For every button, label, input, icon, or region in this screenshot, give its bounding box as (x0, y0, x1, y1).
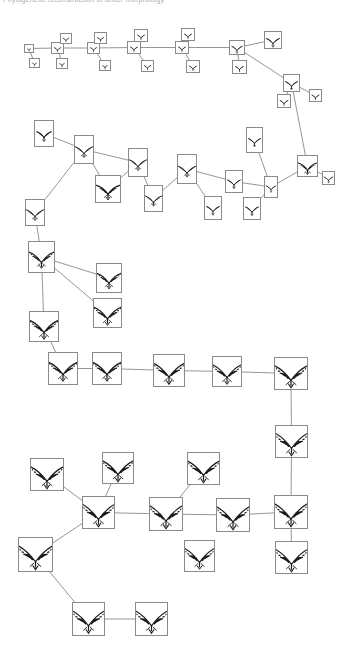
antler-icon (150, 498, 182, 530)
tree-node-n1[interactable] (24, 44, 34, 53)
tree-node-n29[interactable] (204, 196, 222, 220)
tree-node-n25[interactable] (128, 148, 148, 177)
tree-node-n34[interactable] (322, 171, 335, 185)
antler-icon (178, 155, 196, 183)
tree-node-n30[interactable] (246, 127, 263, 153)
antler-icon (233, 61, 246, 73)
tree-node-n24[interactable] (95, 175, 121, 203)
tree-node-n18[interactable] (283, 74, 300, 92)
antler-icon (275, 358, 307, 389)
tree-node-n7[interactable] (94, 32, 107, 44)
antler-icon (30, 59, 39, 67)
tree-node-n42[interactable] (212, 356, 242, 387)
tree-node-n15[interactable] (229, 40, 245, 55)
tree-node-n51[interactable] (187, 452, 220, 485)
tree-node-n21[interactable] (34, 120, 54, 147)
antler-icon (154, 355, 184, 386)
tree-node-n41[interactable] (153, 354, 185, 387)
antler-icon (145, 186, 162, 211)
tree-node-n10[interactable] (134, 29, 148, 42)
tree-edge (37, 226, 39, 241)
antler-icon (142, 61, 153, 71)
tree-edge (293, 92, 305, 155)
antler-icon (128, 42, 140, 53)
tree-node-n35[interactable] (28, 241, 55, 273)
tree-node-n28[interactable] (225, 170, 243, 193)
tree-node-n50[interactable] (149, 497, 183, 531)
tree-node-n12[interactable] (175, 41, 189, 54)
tree-node-n53[interactable] (184, 540, 215, 572)
antler-icon (182, 29, 194, 40)
antler-icon (247, 128, 262, 152)
tree-node-n37[interactable] (93, 298, 122, 328)
tree-edge (197, 184, 205, 196)
tree-node-n13[interactable] (181, 28, 195, 41)
antler-icon (244, 198, 260, 219)
tree-edge (42, 273, 43, 311)
tree-node-n8[interactable] (99, 60, 111, 71)
tree-node-n54[interactable] (18, 537, 53, 572)
tree-edge (242, 372, 274, 373)
tree-node-n45[interactable] (274, 495, 308, 529)
tree-node-n17[interactable] (264, 31, 282, 49)
antler-icon (49, 353, 77, 384)
antler-icon (310, 90, 321, 101)
tree-node-n46[interactable] (275, 541, 308, 574)
tree-edge (93, 164, 100, 175)
tree-edge (55, 268, 93, 300)
tree-node-n38[interactable] (29, 311, 59, 342)
tree-node-n32[interactable] (243, 197, 261, 220)
tree-edge (122, 369, 153, 370)
tree-node-n22[interactable] (74, 135, 94, 164)
tree-node-n11[interactable] (141, 60, 154, 72)
tree-node-n16[interactable] (232, 60, 247, 74)
tree-node-n48[interactable] (102, 452, 134, 484)
antler-icon (265, 32, 281, 48)
tree-node-n49[interactable] (82, 496, 115, 529)
tree-node-n26[interactable] (144, 185, 163, 212)
tree-node-n44[interactable] (275, 425, 308, 458)
tree-edge (45, 162, 74, 199)
tree-edge (51, 342, 56, 352)
tree-edge (106, 484, 111, 496)
antler-icon (176, 42, 188, 53)
tree-node-n36[interactable] (96, 263, 122, 293)
tree-node-n39[interactable] (48, 352, 78, 385)
antler-icon (31, 459, 63, 490)
tree-edge (115, 513, 149, 514)
tree-edge (53, 524, 82, 543)
tree-node-n19[interactable] (277, 94, 291, 108)
tree-node-n55[interactable] (72, 602, 105, 636)
tree-node-n9[interactable] (127, 41, 141, 54)
tree-edge (250, 513, 274, 514)
tree-node-n5[interactable] (56, 58, 68, 69)
antler-icon (217, 499, 249, 531)
tree-node-n52[interactable] (216, 498, 250, 532)
antler-icon (30, 312, 58, 341)
antler-icon (276, 426, 307, 457)
antler-icon (93, 353, 121, 384)
tree-node-n2[interactable] (29, 58, 40, 68)
antler-icon (213, 357, 241, 386)
tree-node-n43[interactable] (274, 357, 308, 390)
tree-node-n56[interactable] (135, 602, 168, 636)
tree-edge (50, 572, 75, 602)
antler-icon (96, 176, 120, 202)
tree-node-n40[interactable] (92, 352, 122, 385)
tree-node-n31[interactable] (264, 176, 278, 198)
antler-icon (73, 603, 104, 635)
figure-canvas: Phylogenetic reconstruction of antler mo… (0, 0, 348, 658)
tree-node-n23[interactable] (25, 199, 45, 226)
tree-edge (259, 153, 267, 176)
antler-icon (95, 33, 106, 43)
tree-node-n14[interactable] (186, 60, 200, 73)
antler-icon (75, 136, 93, 163)
antler-icon (185, 541, 214, 571)
tree-node-n20[interactable] (309, 89, 322, 102)
tree-node-n47[interactable] (30, 458, 64, 491)
tree-edge (54, 138, 74, 146)
tree-node-n4[interactable] (60, 33, 72, 44)
tree-node-n33[interactable] (297, 155, 318, 177)
antler-icon (323, 172, 334, 184)
tree-node-n27[interactable] (177, 154, 197, 184)
